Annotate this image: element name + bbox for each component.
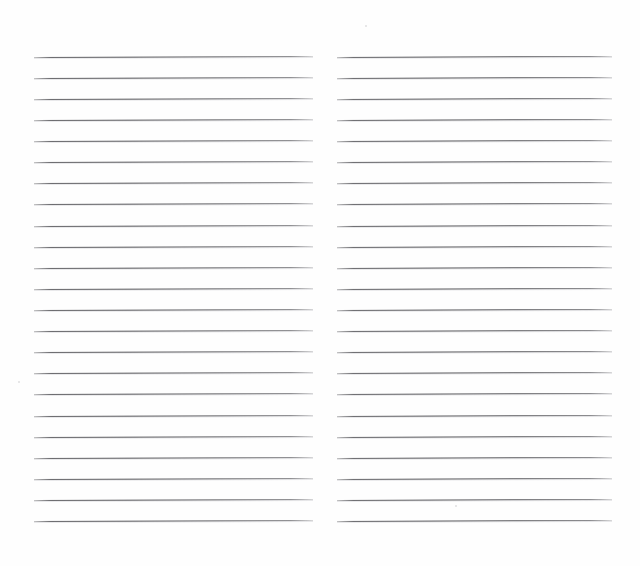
rule-line <box>34 351 313 353</box>
rule-line <box>337 478 612 480</box>
rule-line <box>34 225 313 227</box>
rule-line <box>337 415 612 417</box>
rule-line <box>34 161 313 163</box>
rule-line <box>337 140 612 142</box>
rule-line <box>337 520 612 522</box>
rule-line <box>34 140 313 142</box>
rule-line <box>34 499 313 501</box>
rule-line <box>337 203 612 205</box>
rule-line <box>337 119 612 121</box>
rule-line <box>34 203 313 205</box>
rule-line <box>34 372 313 374</box>
rule-line <box>337 309 612 311</box>
rule-line <box>34 182 313 184</box>
rule-line <box>337 77 612 79</box>
rule-line <box>34 77 313 79</box>
rule-line <box>337 499 612 501</box>
rule-line <box>34 520 313 522</box>
rule-line <box>34 330 313 332</box>
rule-line <box>34 98 313 100</box>
rule-line <box>34 393 313 395</box>
rule-line <box>337 225 612 227</box>
rule-line <box>337 351 612 353</box>
rule-line <box>337 330 612 332</box>
rule-line <box>337 98 612 100</box>
rule-line <box>337 457 612 459</box>
rule-line <box>337 372 612 374</box>
rule-line <box>337 436 612 438</box>
scan-speck <box>365 25 367 27</box>
rule-line <box>337 161 612 163</box>
rule-line <box>337 182 612 184</box>
rule-line <box>34 288 313 290</box>
rule-line <box>337 56 612 58</box>
rule-line <box>337 267 612 269</box>
rule-line <box>337 288 612 290</box>
rule-line <box>34 415 313 417</box>
rule-line <box>34 478 313 480</box>
rule-line <box>34 267 313 269</box>
rule-line <box>34 119 313 121</box>
rule-line <box>34 309 313 311</box>
rule-line <box>34 436 313 438</box>
rule-line <box>337 393 612 395</box>
scan-speck <box>18 381 20 383</box>
scan-speck <box>455 505 457 507</box>
scanned-page: Blank ruled notebook page <box>0 0 640 566</box>
rule-line <box>337 246 612 248</box>
rule-line <box>34 457 313 459</box>
rule-line <box>34 246 313 248</box>
rule-line <box>34 56 313 58</box>
ruled-lines-right-column <box>337 0 612 566</box>
ruled-lines-left-column <box>34 0 313 566</box>
